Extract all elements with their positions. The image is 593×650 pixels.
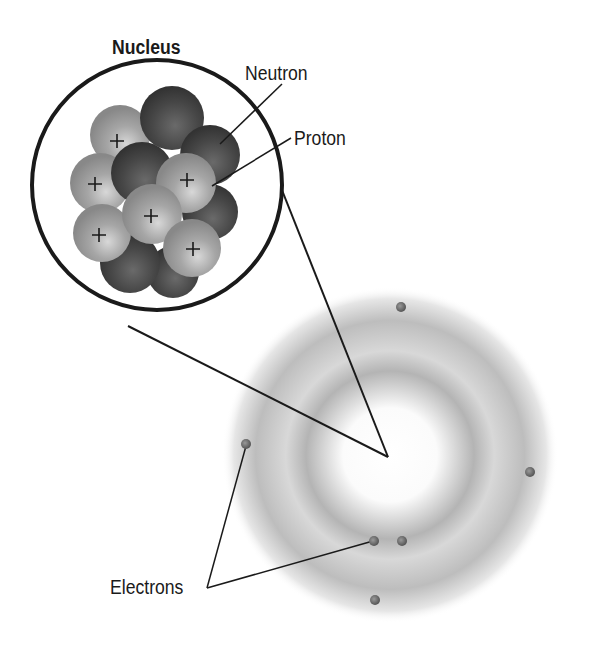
electron [525, 467, 535, 477]
electron [397, 536, 407, 546]
electron [241, 439, 251, 449]
electron-cloud [222, 287, 558, 623]
atom-diagram [0, 0, 593, 650]
nucleus-label: Nucleus [112, 36, 180, 59]
electrons-label: Electrons [110, 576, 183, 599]
electron [396, 302, 406, 312]
electron [370, 595, 380, 605]
electron [369, 536, 379, 546]
neutron-label: Neutron [245, 62, 308, 85]
proton-label: Proton [294, 127, 346, 150]
